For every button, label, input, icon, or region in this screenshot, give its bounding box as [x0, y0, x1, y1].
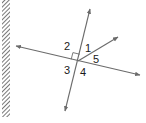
angle-label-1: 1 — [85, 42, 91, 54]
angle-label-4: 4 — [80, 66, 86, 78]
angle-diagram: 1 2 3 4 5 — [0, 0, 146, 123]
angle-label-5: 5 — [93, 53, 99, 65]
hatched-wall — [2, 0, 10, 117]
angle-label-3: 3 — [64, 64, 70, 76]
angle-label-2: 2 — [64, 40, 70, 52]
